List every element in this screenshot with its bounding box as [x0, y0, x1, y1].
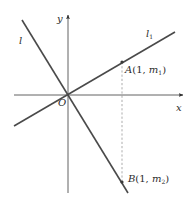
point-b-var: m [152, 173, 161, 184]
line-l1-sub: 1 [149, 33, 153, 40]
point-a-close: ) [162, 64, 166, 75]
coordinate-diagram: y x O l l1 A(1, m1) B(1, m2) [0, 0, 189, 206]
line-l [22, 20, 128, 193]
point-a-marker [120, 60, 123, 63]
point-a-open: (1, [132, 64, 149, 75]
line-l-label: l [19, 35, 22, 46]
point-b-close: ) [165, 173, 169, 184]
point-b-name: B [127, 173, 135, 184]
line-l1-label: l1 [146, 28, 153, 40]
point-a-name: A [124, 64, 132, 75]
point-b-label: B(1, m2) [127, 173, 169, 185]
x-axis-label: x [176, 102, 182, 113]
y-axis-label: y [56, 13, 63, 24]
point-b-open: (1, [135, 173, 152, 184]
point-b-marker [120, 180, 123, 183]
point-a-var: m [149, 64, 158, 75]
origin-label: O [58, 97, 66, 108]
point-a-label: A(1, m1) [124, 64, 166, 76]
